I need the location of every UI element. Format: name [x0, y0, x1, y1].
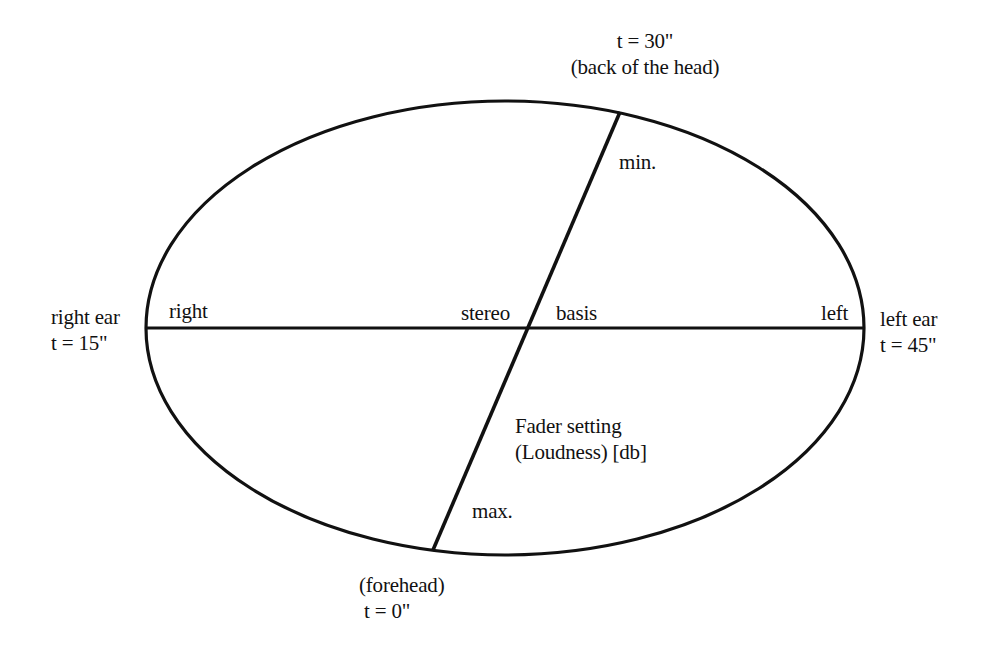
left-axis-label: left — [821, 300, 848, 326]
fader-setting-label: Fader setting (Loudness) [db] — [515, 413, 647, 465]
fader-setting-line1: Fader setting — [515, 413, 647, 439]
basis-axis-label: basis — [556, 300, 597, 326]
forehead-label: (forehead) — [359, 572, 444, 598]
fader-axis — [433, 112, 620, 550]
left-ear-label: left ear t = 45" — [880, 306, 937, 358]
fader-setting-line2: (Loudness) [db] — [515, 439, 647, 465]
top-time-label: t = 30" — [560, 28, 730, 54]
right-ear-time: t = 15" — [51, 330, 120, 356]
bottom-time-label: t = 0" — [359, 598, 444, 624]
back-of-head-label: (back of the head) — [560, 54, 730, 80]
right-ear-label: right ear t = 15" — [51, 304, 120, 356]
left-ear-position: left ear — [880, 306, 937, 332]
right-ear-position: right ear — [51, 304, 120, 330]
right-axis-label: right — [169, 298, 208, 324]
max-label: max. — [472, 498, 513, 524]
stereo-axis-label: stereo — [461, 300, 510, 326]
top-label: t = 30" (back of the head) — [560, 28, 730, 80]
head-orientation-diagram — [0, 0, 1005, 667]
bottom-label: (forehead) t = 0" — [359, 572, 444, 624]
left-ear-time: t = 45" — [880, 332, 937, 358]
min-label: min. — [619, 149, 656, 175]
